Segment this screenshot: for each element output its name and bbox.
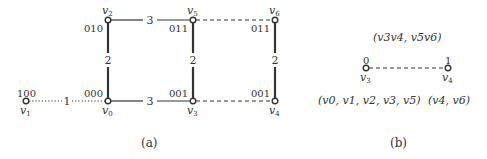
name-v5: v5 <box>187 4 198 18</box>
diagram-svg: 1 2 3 3 2 2 000 100 010 001 001 011 011 … <box>0 0 487 159</box>
node-v3 <box>190 98 196 104</box>
caption-b: (b) <box>390 136 407 150</box>
code-v4: 001 <box>251 88 270 99</box>
name-b-v4: v4 <box>442 71 453 85</box>
name-v1: v1 <box>20 104 31 118</box>
figure-b-top-label: (v3v4, v5v6) <box>373 31 441 44</box>
node-b-v3 <box>363 65 369 71</box>
weight-v0-v3: 3 <box>147 95 154 108</box>
figure-a-node-codes: 000 100 010 001 001 011 011 <box>17 23 270 99</box>
figure-a-edges <box>29 20 275 101</box>
node-v4 <box>272 98 278 104</box>
name-v4: v4 <box>269 104 280 118</box>
name-v0: v0 <box>102 104 113 118</box>
node-v1 <box>23 98 29 104</box>
code-v6: 011 <box>251 23 270 34</box>
weight-v0-v2: 2 <box>105 54 112 67</box>
weight-v4-v6: 2 <box>272 54 279 67</box>
name-b-v3: v3 <box>360 71 371 85</box>
figure-a-nodes <box>23 17 278 104</box>
node-v0 <box>105 98 111 104</box>
name-v2: v2 <box>102 4 113 18</box>
name-v6: v6 <box>269 4 280 18</box>
code-v5: 011 <box>169 23 188 34</box>
group-b-v4: (v4, v6) <box>428 94 470 107</box>
weight-v1-v0: 1 <box>64 95 71 108</box>
node-v6 <box>272 17 278 23</box>
node-v2 <box>105 17 111 23</box>
name-v3: v3 <box>187 104 198 118</box>
node-b-v4 <box>445 65 451 71</box>
node-v5 <box>190 17 196 23</box>
weight-v2-v5: 3 <box>147 14 154 27</box>
code-v1: 100 <box>17 88 36 99</box>
weight-v3-v5: 2 <box>190 54 197 67</box>
code-v0: 000 <box>84 88 103 99</box>
code-v2: 010 <box>84 23 103 34</box>
code-b-v3: 0 <box>363 55 369 66</box>
caption-a: (a) <box>141 136 158 150</box>
diagram-canvas: 1 2 3 3 2 2 000 100 010 001 001 011 011 … <box>0 0 487 159</box>
code-b-v4: 1 <box>445 55 451 66</box>
code-v3: 001 <box>169 88 188 99</box>
group-b-v3: (v0, v1, v2, v3, v5) <box>318 94 421 107</box>
